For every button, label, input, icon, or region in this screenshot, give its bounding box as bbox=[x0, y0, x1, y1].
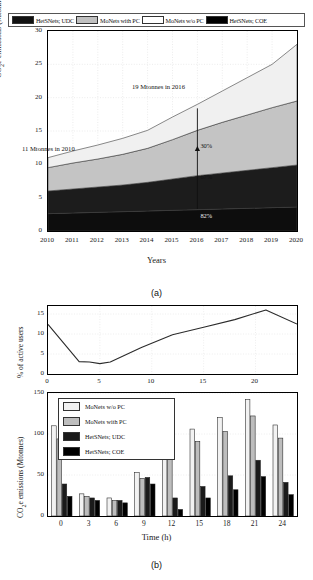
panel-b-line-x-tick: 15 bbox=[193, 377, 213, 385]
legend-a-item: MoNets with PC bbox=[75, 16, 141, 24]
panel-b-bar bbox=[79, 494, 84, 516]
panel-b-bar bbox=[284, 482, 289, 516]
panel-a-caption: (a) bbox=[0, 288, 313, 298]
legend-b-swatch-icon bbox=[63, 417, 80, 426]
panel-b-bar-x-tick: 24 bbox=[272, 519, 292, 528]
panel-b-line-x-tick: 5 bbox=[89, 377, 109, 385]
panel-a-plot-area bbox=[47, 30, 298, 232]
panel-a-percent-label: 30% bbox=[200, 142, 212, 149]
panel-b-bar bbox=[201, 486, 206, 516]
panel-b-line-plot-area bbox=[47, 305, 298, 375]
legend-panel-b: MoNets w/o PCMoNets with PCHetSNets; UDC… bbox=[58, 398, 175, 460]
legend-a-item-label: HetSNets; UDC bbox=[36, 17, 74, 24]
panel-b-bar bbox=[123, 503, 128, 516]
panel-b-bar bbox=[245, 400, 250, 516]
panel-b-bar bbox=[218, 418, 223, 516]
legend-b-item: MoNets w/o PC bbox=[63, 402, 170, 411]
legend-b-item-label: HetSNets; COE bbox=[85, 448, 124, 455]
legend-a-swatch-icon bbox=[76, 16, 98, 24]
panel-a-annotation: 19 Mtonnes in 2016 bbox=[132, 83, 185, 90]
panel-b-bar bbox=[173, 498, 178, 516]
panel-b-bar bbox=[233, 490, 238, 516]
legend-b-swatch-icon bbox=[63, 432, 80, 441]
panel-a-x-tick: 2016 bbox=[182, 236, 210, 244]
panel-b-bar-y-tick: 150 bbox=[18, 388, 44, 396]
panel-a-x-axis-label: Years bbox=[0, 255, 313, 265]
panel-b-bar bbox=[273, 425, 278, 516]
panel-b-caption: (b) bbox=[0, 560, 313, 570]
panel-b-line-y-tick: 10 bbox=[20, 329, 44, 337]
legend-a-item-label: MoNets w/o PC bbox=[166, 17, 204, 24]
legend-a-swatch-icon bbox=[12, 16, 34, 24]
panel-b-bar-x-tick: 18 bbox=[217, 519, 237, 528]
legend-b-item: MoNets with PC bbox=[63, 417, 170, 426]
panel-b-line-y-tick: 15 bbox=[20, 309, 44, 317]
panel-b-line-y-tick: 5 bbox=[20, 349, 44, 357]
panel-b-bar-x-tick: 9 bbox=[134, 519, 154, 528]
panel-a-x-tick: 2015 bbox=[158, 236, 186, 244]
panel-a-y-tick: 10 bbox=[16, 159, 42, 167]
panel-b-bar bbox=[107, 498, 112, 516]
panel-a-y-tick: 25 bbox=[16, 59, 42, 67]
figure-root: HetSNets; UDCMoNets with PCMoNets w/o PC… bbox=[0, 0, 313, 580]
panel-b-bar bbox=[90, 498, 95, 516]
panel-b-bar bbox=[135, 473, 140, 516]
panel-a-x-tick: 2019 bbox=[257, 236, 285, 244]
panel-b-bar-x-tick: 6 bbox=[106, 519, 126, 528]
panel-b-bar bbox=[150, 484, 155, 516]
panel-b-bar-x-tick: 3 bbox=[79, 519, 99, 528]
legend-a-item-label: MoNets with PC bbox=[100, 17, 140, 24]
panel-b-bar-x-tick: 12 bbox=[162, 519, 182, 528]
panel-a-y-tick: 30 bbox=[16, 26, 42, 34]
panel-b-bar-x-tick: 15 bbox=[189, 519, 209, 528]
panel-b-bar bbox=[190, 429, 195, 516]
panel-b-bar-x-tick: 21 bbox=[245, 519, 265, 528]
panel-b-bar bbox=[178, 509, 183, 516]
legend-a-item: HetSNets; UDC bbox=[11, 16, 75, 24]
panel-a-x-tick: 2020 bbox=[282, 236, 310, 244]
legend-b-item-label: MoNets w/o PC bbox=[85, 403, 125, 410]
panel-a-x-tick: 2017 bbox=[207, 236, 235, 244]
legend-a-item: MoNets w/o PC bbox=[141, 16, 205, 24]
panel-b-bar-y-tick: 50 bbox=[18, 470, 44, 478]
panel-a-x-tick: 2018 bbox=[232, 236, 260, 244]
panel-b-line-x-tick: 20 bbox=[245, 377, 265, 385]
panel-a-y-tick: 5 bbox=[16, 193, 42, 201]
panel-a-x-tick: 2013 bbox=[108, 236, 136, 244]
legend-a-swatch-icon bbox=[142, 16, 164, 24]
panel-a-x-tick: 2011 bbox=[58, 236, 86, 244]
panel-b-bar bbox=[52, 426, 57, 516]
panel-b-bar bbox=[228, 476, 233, 516]
panel-a-annotation: 11 Mtonnes in 2010 bbox=[22, 145, 75, 152]
panel-a-x-tick: 2010 bbox=[33, 236, 61, 244]
panel-b-bar bbox=[67, 496, 72, 516]
panel-b-bar bbox=[118, 500, 123, 516]
panel-a-x-tick: 2014 bbox=[133, 236, 161, 244]
legend-b-swatch-icon bbox=[63, 402, 80, 411]
panel-a-y-tick: 20 bbox=[16, 93, 42, 101]
panel-a-percent-label: 82% bbox=[200, 212, 212, 219]
legend-b-swatch-icon bbox=[63, 447, 80, 456]
panel-b-bar bbox=[85, 496, 90, 516]
panel-b-line-series bbox=[48, 310, 297, 364]
panel-b-line-x-tick: 0 bbox=[37, 377, 57, 385]
legend-b-item: HetSNets; UDC bbox=[63, 432, 170, 441]
panel-b-x-axis-label: Time (h) bbox=[0, 532, 313, 542]
panel-b-bar bbox=[168, 454, 173, 516]
panel-b-bar bbox=[95, 500, 100, 516]
panel-b-bar bbox=[145, 477, 150, 516]
panel-b-bar-y-tick: 0 bbox=[18, 511, 44, 519]
panel-b-line-x-tick: 10 bbox=[141, 377, 161, 385]
panel-b-bar-y-tick: 100 bbox=[18, 429, 44, 437]
panel-a-percent-label: 67% bbox=[200, 173, 212, 180]
panel-b-bar bbox=[278, 438, 283, 516]
panel-a-x-tick: 2012 bbox=[83, 236, 111, 244]
legend-b-item-label: MoNets with PC bbox=[85, 418, 127, 425]
panel-b-bar bbox=[223, 432, 228, 516]
legend-b-item-label: HetSNets; UDC bbox=[85, 433, 125, 440]
panel-b-line-y-tick: 0 bbox=[20, 369, 44, 377]
panel-b-bar bbox=[112, 500, 117, 516]
panel-a-y-tick: 15 bbox=[16, 126, 42, 134]
legend-b-item: HetSNets; COE bbox=[63, 447, 170, 456]
panel-b-bar bbox=[195, 441, 200, 516]
